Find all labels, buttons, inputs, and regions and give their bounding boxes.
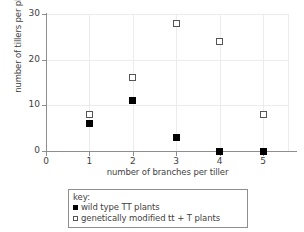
x-tick-label: 0 — [36, 156, 56, 166]
data-point-marker — [86, 120, 93, 127]
legend-entry-label: wild type TT plants — [81, 202, 160, 213]
gridline-vertical — [133, 14, 134, 152]
gridline-horizontal — [46, 105, 289, 106]
data-point-marker — [216, 148, 223, 155]
legend-title: key: — [73, 192, 247, 202]
y-tick-mark — [42, 14, 46, 15]
y-tick-label: 30 — [16, 8, 40, 18]
data-point-marker — [260, 111, 267, 118]
gridline-vertical — [220, 14, 221, 152]
open-square-icon — [73, 216, 78, 221]
gridline-vertical — [89, 14, 90, 152]
x-tick-label: 2 — [123, 156, 143, 166]
legend-entries: wild type TT plantsgenetically modified … — [73, 202, 247, 224]
data-point-marker — [216, 38, 223, 45]
scatter-chart-figure: number of tillers per plant 0102030 0123… — [0, 0, 304, 232]
x-tick-label: 5 — [253, 156, 273, 166]
y-axis-line — [46, 13, 47, 152]
legend-box: key: wild type TT plantsgenetically modi… — [68, 189, 248, 228]
data-point-marker — [129, 74, 136, 81]
data-point-marker — [129, 97, 136, 104]
plot-area — [46, 14, 289, 152]
x-tick-label: 3 — [166, 156, 186, 166]
filled-square-icon — [73, 205, 78, 210]
x-tick-label: 4 — [210, 156, 230, 166]
data-point-marker — [173, 134, 180, 141]
gridline-vertical — [176, 14, 177, 152]
gridline-vertical — [288, 14, 289, 152]
legend-entry: genetically modified tt + T plants — [73, 213, 247, 224]
y-tick-label: 20 — [16, 54, 40, 64]
gridline-horizontal — [46, 14, 289, 15]
y-axis-tick-labels: 0102030 — [12, 0, 40, 170]
y-tick-label: 0 — [16, 145, 40, 155]
data-point-marker — [260, 148, 267, 155]
data-point-marker — [86, 111, 93, 118]
y-tick-mark — [42, 105, 46, 106]
x-axis-label: number of branches per tiller — [46, 167, 289, 177]
gridline-horizontal — [46, 60, 289, 61]
data-point-marker — [173, 20, 180, 27]
y-tick-mark — [42, 60, 46, 61]
legend-entry-label: genetically modified tt + T plants — [81, 213, 220, 224]
legend-entry: wild type TT plants — [73, 202, 247, 213]
y-tick-label: 10 — [16, 99, 40, 109]
x-tick-label: 1 — [79, 156, 99, 166]
gridline-vertical — [263, 14, 264, 152]
